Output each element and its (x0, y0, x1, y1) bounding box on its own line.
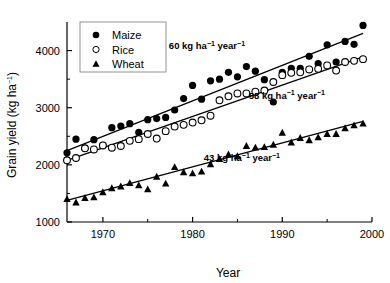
data-point-rice (207, 112, 214, 119)
data-point-maize (350, 41, 357, 48)
y-tick-label: 3000 (36, 102, 60, 114)
data-point-maize (359, 22, 366, 29)
data-point-maize (63, 149, 70, 156)
data-point-maize (126, 120, 133, 127)
data-point-maize (216, 76, 223, 83)
data-point-maize (243, 63, 250, 70)
x-tick-label: 1970 (91, 228, 115, 240)
y-tick-label: 4000 (36, 45, 60, 57)
legend-label-maize: Maize (112, 29, 141, 41)
data-point-rice (153, 135, 160, 142)
data-point-rice (306, 66, 313, 73)
data-point-rice (333, 67, 340, 74)
x-axis-title: Year (216, 266, 240, 280)
data-point-rice (117, 143, 124, 150)
data-point-maize (252, 68, 259, 75)
data-point-rice (270, 79, 277, 86)
x-tick-label: 1980 (180, 228, 204, 240)
data-point-rice (91, 146, 98, 153)
x-tick-label: 1990 (270, 228, 294, 240)
x-tick-label: 2000 (360, 228, 384, 240)
data-point-maize (324, 41, 331, 48)
data-point-maize (108, 124, 115, 131)
legend-label-wheat: Wheat (112, 58, 144, 70)
data-point-maize (198, 96, 205, 103)
data-point-rice (64, 157, 71, 164)
data-point-rice (171, 123, 178, 130)
data-point-maize (234, 73, 241, 80)
grain-yield-scatter-chart: 1970198019902000 1000200030004000 60 kg … (0, 0, 390, 283)
data-point-maize (117, 122, 124, 129)
data-point-maize (90, 136, 97, 143)
data-point-maize (72, 136, 79, 143)
data-point-rice (73, 155, 80, 162)
data-point-maize (341, 38, 348, 45)
data-point-rice (135, 136, 142, 143)
data-point-maize (189, 82, 196, 89)
data-point-rice (189, 119, 196, 126)
data-point-rice (144, 131, 151, 138)
data-point-maize (135, 129, 142, 136)
data-point-rice (162, 128, 169, 135)
data-point-rice (315, 65, 322, 72)
data-point-rice (198, 117, 205, 124)
data-point-maize (333, 58, 340, 65)
data-point-maize (162, 114, 169, 121)
data-point-rice (297, 69, 304, 76)
data-point-rice (108, 144, 115, 151)
data-point-rice (234, 90, 241, 97)
y-tick-label: 1000 (36, 216, 60, 228)
data-point-rice (288, 69, 295, 76)
data-point-maize (153, 115, 160, 122)
data-point-maize (171, 106, 178, 113)
data-point-rice (279, 72, 286, 79)
data-point-rice (126, 137, 133, 144)
y-tick-label: 2000 (36, 159, 60, 171)
data-point-rice (82, 145, 89, 152)
data-point-rice (180, 121, 187, 128)
data-point-rice (324, 62, 331, 69)
chart-figure: 1970198019902000 1000200030004000 60 kg … (0, 0, 390, 283)
data-point-rice (351, 57, 358, 64)
data-point-rice (216, 97, 223, 104)
data-point-rice (342, 59, 349, 66)
y-axis-title: Grain yield (kg ha−1) (5, 72, 19, 178)
data-point-maize (180, 95, 187, 102)
data-point-rice (360, 56, 367, 63)
data-point-maize (144, 116, 151, 123)
legend-marker-rice (93, 46, 99, 52)
data-point-maize (306, 53, 313, 60)
legend-marker-maize (93, 32, 100, 39)
data-point-maize (207, 77, 214, 84)
data-point-maize (225, 69, 232, 76)
data-point-rice (99, 142, 106, 149)
data-point-maize (261, 76, 268, 83)
legend: MaizeRiceWheat (80, 22, 166, 72)
legend-label-rice: Rice (112, 44, 134, 56)
data-point-rice (225, 93, 232, 100)
